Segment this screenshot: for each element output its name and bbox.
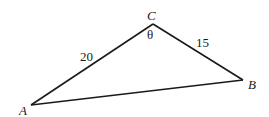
angle-theta-label: θ	[147, 27, 153, 42]
side-ac-length: 20	[80, 49, 93, 64]
vertex-c-label: C	[147, 8, 156, 23]
vertex-a-label: A	[18, 103, 27, 117]
vertex-b-label: B	[248, 77, 256, 92]
side-cb-length: 15	[196, 35, 209, 50]
triangle-diagram: C θ B A 20 15	[0, 0, 269, 117]
side-cb	[153, 24, 243, 80]
